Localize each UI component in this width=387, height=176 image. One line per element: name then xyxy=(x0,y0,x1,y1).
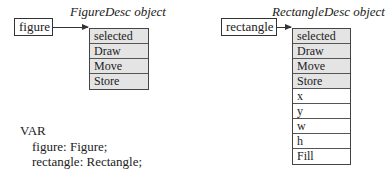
figuredesc-table: selected Draw Move Store xyxy=(89,28,149,90)
field-row: Fill xyxy=(293,149,350,164)
field-row: Draw xyxy=(90,44,148,59)
rectangle-variable-box: rectangle xyxy=(221,18,277,36)
field-row: selected xyxy=(90,29,148,44)
field-row: selected xyxy=(293,29,350,44)
figure-variable-box: figure xyxy=(14,18,53,36)
figuredesc-title: FigureDesc object xyxy=(70,4,166,20)
rectangledesc-table: selected Draw Move Store x y w h Fill xyxy=(292,28,351,165)
field-row: Store xyxy=(90,74,148,89)
field-row: w xyxy=(293,119,350,134)
field-row: Move xyxy=(90,59,148,74)
field-row: Move xyxy=(293,59,350,74)
rectangledesc-title: RectangleDesc object xyxy=(272,4,385,20)
field-row: Store xyxy=(293,74,350,89)
code-line-rectangle: rectangle: Rectangle; xyxy=(32,154,142,169)
field-row: h xyxy=(293,134,350,149)
rectangle-pointer-arrow xyxy=(277,27,291,28)
field-row: y xyxy=(293,104,350,119)
code-line-figure: figure: Figure; xyxy=(32,139,107,154)
field-row: x xyxy=(293,89,350,104)
field-row: Draw xyxy=(293,44,350,59)
figure-pointer-arrow xyxy=(53,27,88,28)
var-keyword: VAR xyxy=(20,123,46,138)
